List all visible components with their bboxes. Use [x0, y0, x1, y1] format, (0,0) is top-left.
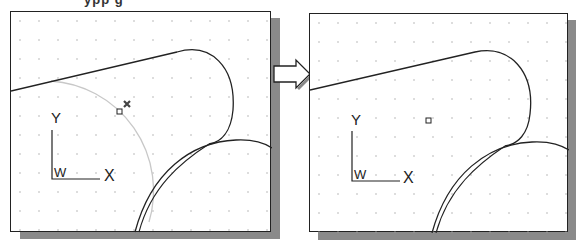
- drawing-after: [310, 14, 569, 233]
- viewport-before: Y W X: [10, 11, 271, 232]
- snap-marker[interactable]: [117, 109, 122, 114]
- snap-marker[interactable]: [426, 118, 431, 123]
- axis-label-origin: W: [354, 167, 366, 182]
- cropped-caption: ypp g: [84, 0, 124, 7]
- axis-label-x: X: [403, 169, 414, 187]
- axis-label-y: Y: [351, 111, 361, 128]
- grid-dots: [310, 14, 569, 233]
- axis-label-y: Y: [51, 109, 61, 126]
- viewport-after: Y W X: [309, 13, 568, 232]
- axis-label-origin: W: [54, 165, 66, 180]
- axis-label-x: X: [104, 167, 115, 185]
